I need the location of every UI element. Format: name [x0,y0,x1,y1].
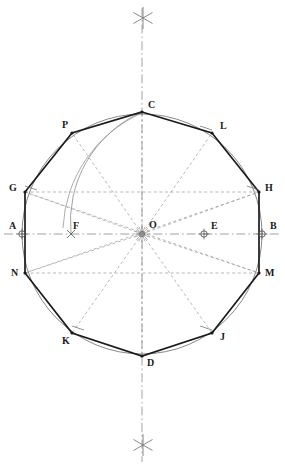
point-label-G: G [9,183,17,193]
point-label-J: J [220,332,225,342]
vertex-dot-H [257,190,260,193]
point-label-A: A [9,221,16,231]
vertex-dot-M [257,271,260,274]
point-label-K: K [62,336,70,346]
point-label-P: P [62,120,68,130]
figure-canvas [0,0,285,471]
bottom-bisector-cross [134,434,153,456]
vertex-dot-J [210,331,213,334]
point-label-E: E [211,221,218,231]
tick-j [200,326,212,330]
point-label-B: B [270,221,277,231]
vertex-dot-N [23,271,26,274]
radius-O-M [142,234,259,273]
point-label-M: M [265,268,274,278]
radius-O-K [72,234,142,333]
point-label-D: D [147,358,154,368]
construction-figure: ABCDEFGHJKLMNPO [0,0,285,471]
vertex-dot-P [70,131,73,134]
vertex-dot-G [23,190,26,193]
vertex-dot-K [70,331,73,334]
tick-k [72,326,84,330]
top-bisector-cross [134,7,153,29]
vertex-dot-L [210,131,213,134]
point-label-F: F [73,221,79,231]
arc-e-to-f [63,113,142,228]
point-label-C: C [148,100,155,110]
radius-O-P [72,133,142,234]
vertex-dot-D [140,354,143,357]
vertex-dot-C [140,110,143,113]
point-label-H: H [265,183,273,193]
point-label-O: O [149,220,157,230]
radius-O-H [142,192,259,234]
point-label-L: L [220,121,227,131]
point-label-N: N [11,268,18,278]
radius-O-J [142,234,212,333]
